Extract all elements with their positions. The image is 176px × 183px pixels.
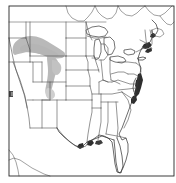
border-ok-ar xyxy=(90,86,92,100)
lake-michigan-shape xyxy=(94,39,101,60)
dark-coastal-shading-layer xyxy=(77,33,156,149)
florida-peninsula-outline xyxy=(114,138,123,173)
long-island-outline xyxy=(138,57,146,60)
lake-ontario-shape xyxy=(124,49,135,55)
border-nv-ca xyxy=(13,62,27,108)
canada-maritimes-outline xyxy=(145,6,172,16)
lake-superior-shape xyxy=(86,26,108,37)
shaded-regions-layer xyxy=(13,36,65,99)
border-ks-mo xyxy=(88,70,90,86)
shade-florida-panhandle-coast xyxy=(95,140,103,145)
us-distribution-map-figure xyxy=(0,0,176,183)
canada-newfoundland-outline xyxy=(160,16,174,25)
canada-ontario-outline xyxy=(95,6,118,19)
shade-nebraska-patch xyxy=(46,88,55,99)
border-tx-la xyxy=(87,100,92,142)
border-ne-ia xyxy=(86,56,88,70)
border-al-ga xyxy=(116,102,118,138)
border-in-ky xyxy=(103,80,108,82)
border-id-nv-ut xyxy=(30,62,33,82)
border-wv-pa-oh xyxy=(111,72,128,74)
border-ms-al xyxy=(106,102,108,134)
image-artifacts-layer xyxy=(9,91,13,97)
canada-lake-region-outline xyxy=(66,6,95,21)
border-ky-tn xyxy=(101,92,122,94)
baja-outline xyxy=(9,150,19,176)
shade-north-central-patch xyxy=(52,60,61,75)
great-lakes-layer xyxy=(86,26,135,63)
border-ga-fl xyxy=(106,134,126,138)
border-pa-md xyxy=(128,74,138,76)
map-canvas xyxy=(0,0,176,183)
border-nc-sc xyxy=(122,92,133,99)
canada-quebec-outline xyxy=(118,6,145,16)
border-il-in xyxy=(101,60,103,80)
lake-huron-shape xyxy=(104,37,115,55)
state-borders-plains xyxy=(57,22,92,148)
border-in-oh xyxy=(110,58,111,80)
border-ga-sc xyxy=(122,92,131,128)
left-edge-speck-shadow xyxy=(11,92,13,96)
